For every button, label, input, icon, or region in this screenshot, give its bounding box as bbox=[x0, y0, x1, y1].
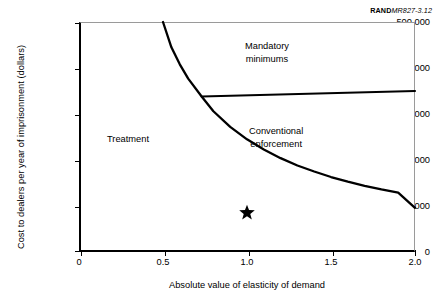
x-tick-label-2-0: 2.0 bbox=[409, 257, 422, 267]
y-tick-200000 bbox=[75, 161, 81, 162]
x-tick-0 bbox=[81, 250, 82, 256]
annotation-conventional-enforcement-line2: enforcement bbox=[249, 138, 303, 151]
y-tick-300000 bbox=[75, 115, 81, 116]
y-tick-100000 bbox=[75, 207, 81, 208]
annotation-mandatory-minimums-line1: Mandatory bbox=[245, 40, 289, 53]
source-credit: RANDMR827-3.12 bbox=[370, 7, 432, 14]
y-axis-title: Cost to dealers per year of imprisonment… bbox=[14, 32, 28, 262]
x-axis-title: Absolute value of elasticity of demand bbox=[79, 279, 415, 291]
x-tick-2-0 bbox=[415, 250, 416, 256]
annotation-mandatory-minimums-line2: minimums bbox=[245, 53, 289, 66]
x-tick-1-0 bbox=[249, 250, 250, 256]
source-credit-docid: MR827-3.12 bbox=[391, 6, 432, 15]
y-tick-label-0: 0 bbox=[425, 247, 430, 257]
annotation-mandatory-minimums: Mandatory minimums bbox=[245, 40, 289, 65]
annotation-conventional-enforcement: Conventional enforcement bbox=[249, 125, 303, 150]
x-tick-label-0: 0 bbox=[76, 257, 81, 267]
x-tick-label-1-0: 1.0 bbox=[241, 257, 254, 267]
y-tick-400000 bbox=[75, 69, 81, 70]
y-tick-500000 bbox=[75, 23, 81, 24]
figure-container: RANDMR827-3.12 Cost to dealers per year … bbox=[0, 0, 438, 302]
annotation-treatment: Treatment bbox=[107, 133, 149, 146]
source-credit-brand: RAND bbox=[370, 6, 391, 15]
x-tick-label-1-5: 1.5 bbox=[325, 257, 338, 267]
x-tick-label-0-5: 0.5 bbox=[157, 257, 170, 267]
x-tick-1-5 bbox=[333, 250, 334, 256]
x-tick-0-5 bbox=[165, 250, 166, 256]
annotation-conventional-enforcement-line1: Conventional bbox=[249, 125, 303, 138]
